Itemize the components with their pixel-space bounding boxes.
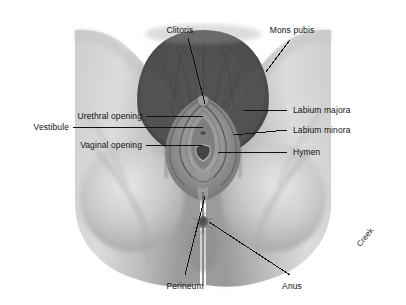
label-vestibule: Vestibule [34,123,69,132]
label-mons-pubis: Mons pubis [270,26,314,35]
illustration-canvas: Clitoris Mons pubis Labium majora Labium… [0,0,406,305]
label-perineum: Perineum [166,282,203,291]
label-clitoris: Clitoris [167,26,194,35]
label-hymen: Hymen [293,148,320,157]
anatomy-illustration [0,0,406,305]
label-urethral-opening: Urethral opening [78,112,142,121]
urethral-orifice [200,131,205,134]
label-labium-majora: Labium majora [293,106,351,115]
label-labium-minora: Labium minora [293,126,351,135]
label-vaginal-opening: Vaginal opening [80,141,142,150]
label-anus: Anus [282,282,302,291]
